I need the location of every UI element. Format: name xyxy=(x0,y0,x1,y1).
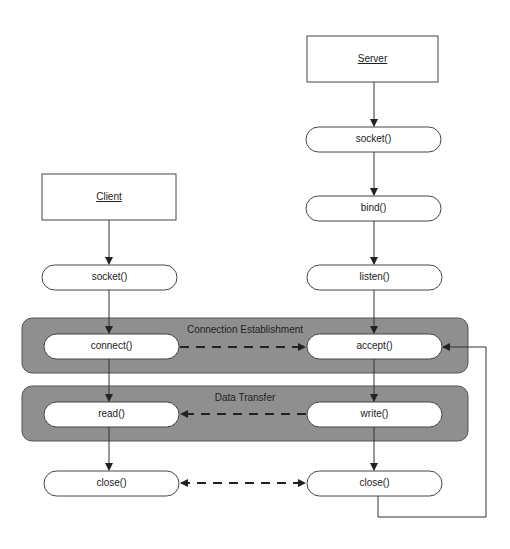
server-write-label: write() xyxy=(307,408,442,420)
server-socket-label: socket() xyxy=(306,133,441,145)
server-accept-label: accept() xyxy=(307,340,442,352)
client-close-label: close() xyxy=(44,477,179,489)
client-socket-label: socket() xyxy=(42,271,177,283)
server-header-label: Server xyxy=(307,53,438,65)
server-listen-label: listen() xyxy=(307,271,442,283)
client-connect-label: connect() xyxy=(44,340,179,352)
client-header-label: Client xyxy=(42,191,176,203)
group-connection-establishment-label: Connection Establishment xyxy=(22,324,468,336)
client-read-label: read() xyxy=(44,408,179,420)
server-close-label: close() xyxy=(307,477,442,489)
group-data-transfer-label: Data Transfer xyxy=(22,392,468,404)
server-bind-label: bind() xyxy=(306,202,441,214)
